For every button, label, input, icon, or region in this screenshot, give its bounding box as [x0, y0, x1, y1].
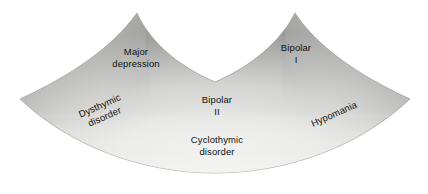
base-highlight [16, 110, 416, 178]
spectrum-body [16, 8, 416, 178]
spectrum-shading [16, 8, 416, 178]
valley-shading [150, 10, 282, 102]
left-peak-shading [16, 8, 146, 118]
right-peak-shading [286, 8, 416, 118]
spectrum-shape-svg [0, 0, 428, 194]
bipolar-spectrum-diagram: Major depression Bipolar I Dysthymic dis… [0, 0, 428, 194]
